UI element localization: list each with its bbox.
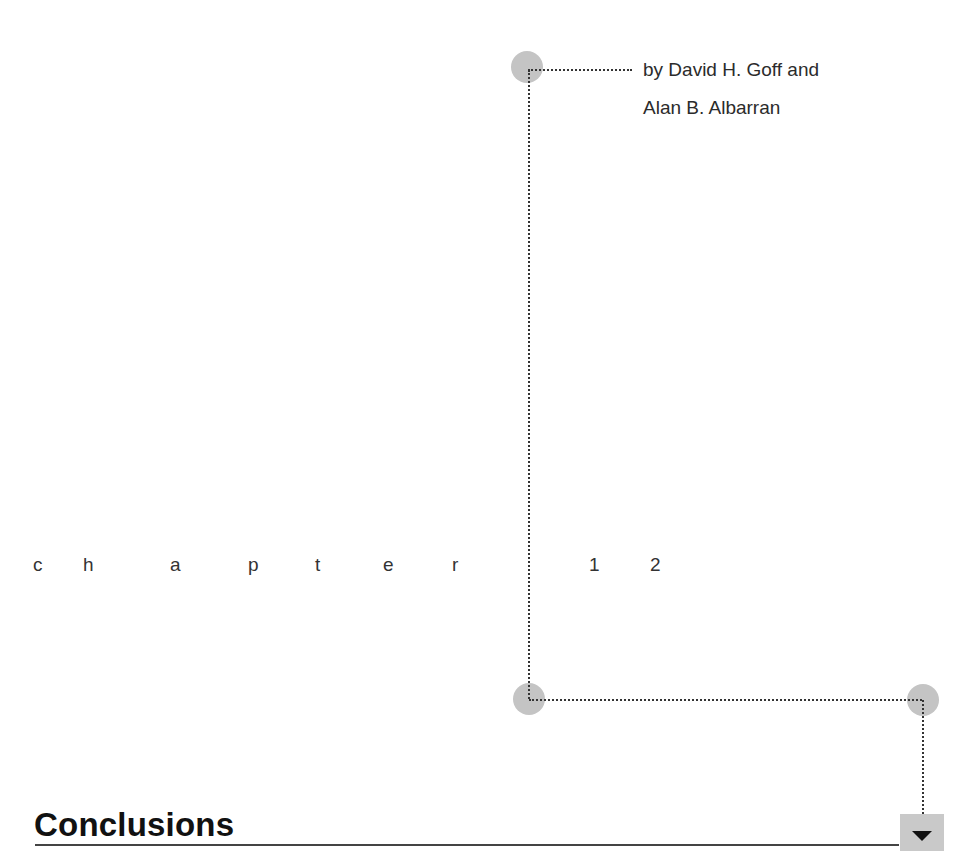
vertical-dotted-connector (528, 70, 530, 699)
heading-rule (35, 844, 899, 846)
chapter-letter: e (383, 555, 394, 574)
chapter-letter: c (33, 555, 43, 574)
chapter-number-digit: 1 (589, 555, 600, 574)
top-dotted-connector (528, 69, 632, 71)
chapter-letter: r (452, 555, 458, 574)
right-dotted-connector (922, 700, 924, 814)
chapter-letter: h (83, 555, 94, 574)
byline-line-2: Alan B. Albarran (643, 98, 780, 117)
section-heading: Conclusions (34, 806, 234, 844)
bottom-dotted-connector (529, 699, 922, 701)
chapter-number-digit: 2 (650, 555, 661, 574)
chapter-letter: p (248, 555, 259, 574)
chapter-letter: a (170, 555, 181, 574)
byline-line-1: by David H. Goff and (643, 60, 819, 79)
chapter-letter: t (315, 555, 320, 574)
down-triangle-icon (912, 831, 932, 841)
top-circle-marker (511, 51, 543, 83)
next-page-button[interactable] (900, 814, 944, 851)
